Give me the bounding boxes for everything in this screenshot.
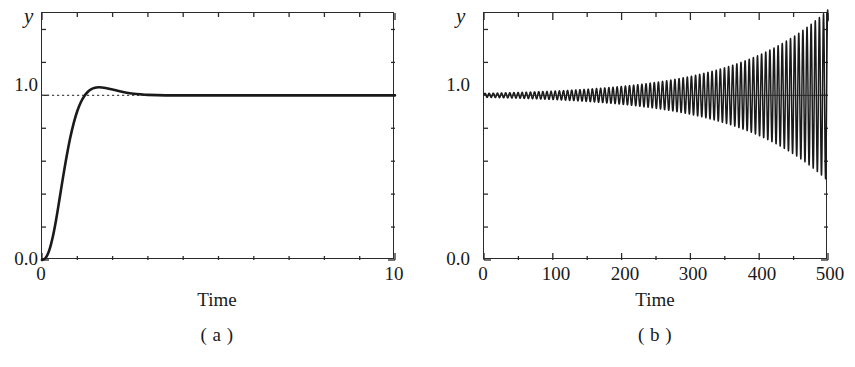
x-tick-label-400-b: 400 [737,264,787,283]
y-axis-symbol-b: y [456,6,465,27]
plot-frame-b [483,12,827,259]
panel-caption-b: ( b ) [575,325,735,344]
plot-canvas-a [42,13,395,260]
x-tick-label-100-b: 100 [531,264,581,283]
y-axis-symbol-a: y [24,6,33,27]
y-tick-label-1-b: 1.0 [410,75,470,94]
x-tick-label-10-a: 10 [374,264,414,283]
x-tick-label-200-b: 200 [600,264,650,283]
plot-canvas-b [484,13,828,260]
x-axis-title-a: Time [137,290,297,309]
x-tick-label-300-b: 300 [668,264,718,283]
x-tick-label-500-b: 500 [805,264,855,283]
y-tick-label-0-b: 0.0 [410,249,470,268]
panel-caption-a: ( a ) [137,325,297,344]
x-axis-title-b: Time [575,290,735,309]
panel-b: y 1.0 0.0 0 100 200 300 400 500 Time ( b… [430,0,855,367]
plot-frame-a [41,12,394,259]
figure-row: y 1.0 0.0 0 10 Time ( a ) y 1.0 0.0 [0,0,855,367]
y-tick-label-1-a: 1.0 [0,75,38,94]
x-tick-label-0-a: 0 [21,264,61,283]
step-response-curve-a [42,87,395,260]
x-tick-label-0-b: 0 [463,264,503,283]
growing-oscillation-curve-b [484,10,828,179]
tick-marks-a [42,13,395,260]
panel-a: y 1.0 0.0 0 10 Time ( a ) [0,0,430,367]
